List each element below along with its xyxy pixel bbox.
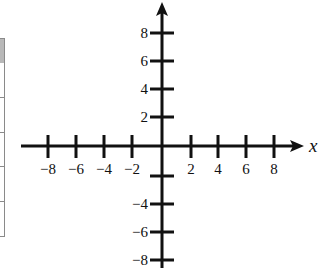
x-tick-label: 2 <box>187 161 195 177</box>
x-axis-ticks: −8−6−4−22468 <box>40 135 278 177</box>
y-tick-label: 8 <box>141 25 149 41</box>
coordinate-plane: x −8−6−4−22468 8642−4−6−8 <box>0 0 331 268</box>
y-tick-label: −8 <box>132 252 148 268</box>
x-axis-label: x <box>308 135 318 156</box>
y-tick-label: −6 <box>132 224 148 240</box>
y-tick-label: 4 <box>141 81 149 97</box>
y-tick-label: 6 <box>141 53 149 69</box>
y-tick-label: 2 <box>141 109 149 125</box>
x-tick-label: 4 <box>214 161 222 177</box>
x-tick-label: 6 <box>242 161 250 177</box>
x-tick-label: 8 <box>270 161 278 177</box>
x-tick-label: −4 <box>96 161 112 177</box>
x-tick-label: −6 <box>68 161 84 177</box>
x-tick-label: −8 <box>40 161 56 177</box>
y-tick-label: −4 <box>132 196 148 212</box>
x-tick-label: −2 <box>124 161 140 177</box>
